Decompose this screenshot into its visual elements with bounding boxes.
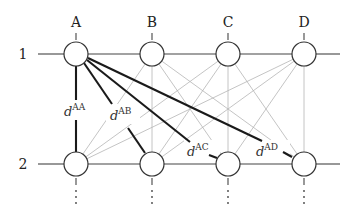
edge-AC bbox=[87, 60, 190, 142]
node-A1 bbox=[64, 42, 88, 66]
column-label-d: D bbox=[298, 14, 309, 30]
node-D1 bbox=[292, 42, 316, 66]
node-B1 bbox=[140, 42, 164, 66]
graph-diagram: A B C D 1 2 dAA dAB dAC dAD bbox=[0, 0, 356, 219]
column-label-c: C bbox=[223, 14, 234, 30]
row-labels: 1 2 bbox=[19, 46, 28, 172]
column-label-b: B bbox=[147, 14, 157, 30]
node-A2 bbox=[64, 152, 88, 176]
node-B2 bbox=[140, 152, 164, 176]
column-labels: A B C D bbox=[70, 14, 310, 30]
row-label-1: 1 bbox=[19, 46, 28, 62]
row-label-2: 2 bbox=[19, 156, 28, 172]
continuation-dots bbox=[75, 190, 305, 204]
column-label-a: A bbox=[70, 14, 82, 30]
node-D2 bbox=[292, 152, 316, 176]
node-C1 bbox=[216, 42, 240, 66]
node-C2 bbox=[216, 152, 240, 176]
